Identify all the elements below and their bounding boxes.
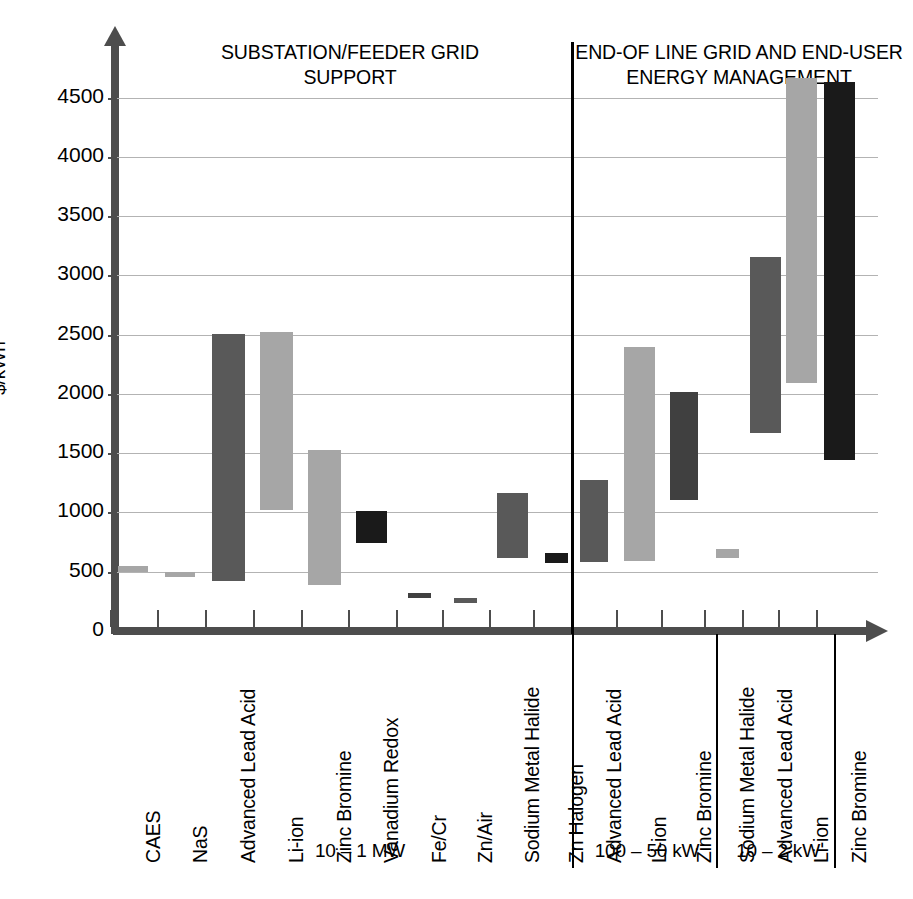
x-tick (616, 610, 618, 627)
y-tick-label: 4500 (26, 84, 104, 108)
bar-li-ion (260, 332, 293, 510)
y-tick-label: 500 (26, 558, 104, 582)
y-tick-label: 1500 (26, 439, 104, 463)
x-tick (442, 610, 444, 627)
divider-group-2-footer (716, 634, 718, 868)
y-tick (108, 216, 117, 218)
group-label: 10 – 2 kW (722, 840, 834, 862)
bar-zn-air (454, 598, 477, 603)
bar-advanced-lead-acid (750, 257, 781, 433)
y-tick (108, 512, 117, 514)
category-label: Advanced Lead Acid (774, 689, 797, 863)
gridline (117, 157, 878, 158)
x-tick (110, 610, 112, 627)
bar-zinc-bromine (824, 82, 855, 460)
y-tick (108, 453, 117, 455)
y-tick-label: 4000 (26, 143, 104, 167)
x-tick (704, 610, 706, 627)
y-tick-label: 3000 (26, 261, 104, 285)
bar-fe-cr (408, 593, 431, 598)
y-tick (108, 335, 117, 337)
bar-vanadium-redox (356, 511, 387, 542)
x-tick (348, 610, 350, 627)
x-tick (778, 610, 780, 627)
x-tick (396, 610, 398, 627)
group-label: 10 – 1 MW (160, 840, 560, 862)
category-label: Sodium Metal Halide (736, 687, 759, 863)
bar-advanced-lead-acid (580, 480, 608, 562)
y-tick (108, 157, 117, 159)
x-tick (301, 610, 303, 627)
x-tick (661, 610, 663, 627)
bar-zn-halogen (545, 553, 568, 564)
y-tick (108, 275, 117, 277)
bar-sodium-metal-halide (497, 493, 528, 558)
x-tick (533, 610, 535, 627)
y-tick-label: 2500 (26, 321, 104, 345)
y-tick (108, 394, 117, 396)
y-tick (108, 98, 117, 100)
gridline (117, 216, 878, 217)
chart-canvas: SUBSTATION/FEEDER GRID SUPPORT END-OF LI… (0, 0, 913, 899)
y-tick-label: 2000 (26, 380, 104, 404)
category-label: Zinc Bromine (848, 751, 871, 863)
y-axis-title: $/kWh (0, 341, 10, 395)
bar-li-ion (624, 347, 655, 562)
divider-group-3-footer (834, 634, 836, 868)
x-tick (742, 610, 744, 627)
y-axis-arrow-icon (104, 26, 126, 46)
bar-zinc-bromine (308, 450, 341, 585)
bar-nas (165, 572, 195, 577)
x-tick (816, 610, 818, 627)
plot-area (117, 55, 878, 631)
category-label: Advanced Lead Acid (603, 689, 626, 863)
x-tick (205, 610, 207, 627)
y-tick-label: 0 (26, 617, 104, 641)
y-tick-label: 3500 (26, 202, 104, 226)
y-tick-label: 1000 (26, 498, 104, 522)
bar-sodium-metal-halide (716, 549, 739, 557)
category-label: Sodium Metal Halide (521, 687, 544, 863)
bar-advanced-lead-acid (212, 334, 245, 582)
x-tick (253, 610, 255, 627)
group-label: 100 – 50 kW (578, 840, 716, 862)
category-label: Advanced Lead Acid (237, 689, 260, 863)
x-tick (157, 610, 159, 627)
divider-group-1-footer (572, 634, 574, 868)
gridline (117, 98, 878, 99)
bar-caes (118, 566, 148, 572)
divider-major (571, 42, 574, 634)
bar-zinc-bromine (670, 392, 698, 500)
x-tick (489, 610, 491, 627)
y-tick (108, 572, 117, 574)
bar-li-ion (786, 78, 817, 384)
